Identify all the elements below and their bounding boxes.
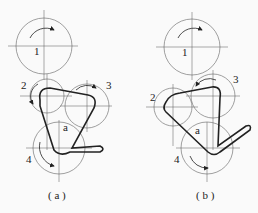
svg-text:a: a — [63, 121, 68, 133]
panel-b: 1 2 3 4 a ( b ) — [146, 12, 251, 202]
caption-b: ( b ) — [196, 189, 215, 202]
panel-a: 1 2 3 4 a ( a ) — [8, 10, 112, 202]
svg-text:3: 3 — [233, 73, 239, 85]
svg-text:3: 3 — [106, 79, 112, 91]
svg-text:2: 2 — [150, 91, 156, 103]
gear-train-diagram: 1 2 3 4 a ( a ) 1 2 3 4 a ( b ) — [0, 0, 258, 213]
svg-text:4: 4 — [26, 153, 32, 165]
svg-text:2: 2 — [21, 79, 27, 91]
rotation-arrow-icon — [30, 28, 54, 38]
svg-text:1: 1 — [182, 46, 188, 58]
svg-text:a: a — [195, 124, 200, 136]
svg-text:1: 1 — [34, 45, 40, 57]
caption-a: ( a ) — [48, 189, 66, 202]
svg-text:4: 4 — [174, 153, 180, 165]
